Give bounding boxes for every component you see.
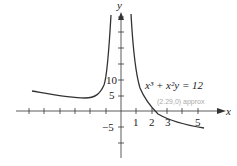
tick-label-1: 1 — [133, 116, 139, 128]
annotation-label: (2.29,0) approx — [157, 98, 205, 106]
equation-label: x³ + x²y = 12 — [144, 79, 204, 91]
x-axis-label: x — [225, 105, 231, 117]
tick-label-3: 3 — [165, 116, 171, 128]
x-axis-arrow-icon — [217, 108, 226, 114]
tick-label-yneg5: −5 — [102, 121, 114, 133]
tick-label-2: 2 — [149, 116, 155, 128]
tick-label-5: 5 — [195, 116, 201, 128]
chart-canvas: y x 1 2 3 5 10 5 −5 x³ + x²y = 12 (2.29,… — [0, 0, 237, 166]
y-axis-arrow-icon — [118, 12, 124, 20]
tick-label-y5: 5 — [109, 89, 115, 101]
y-axis-label: y — [116, 0, 122, 11]
tick-label-y10: 10 — [106, 74, 118, 86]
curve-left-branch — [32, 15, 111, 98]
